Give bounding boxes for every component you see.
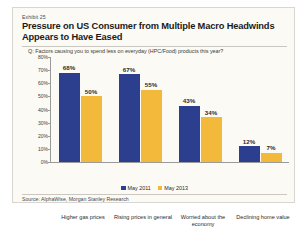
bar-value-label: 67% [115, 66, 143, 73]
legend-swatch-icon [121, 186, 126, 191]
legend-item[interactable]: May 2013 [158, 185, 188, 191]
y-axis-tick-label: 0% [28, 159, 48, 165]
bar-value-label: 34% [197, 109, 225, 116]
bar-value-label: 50% [77, 88, 105, 95]
bar[interactable] [201, 117, 222, 162]
y-axis-tick-label: 10% [28, 146, 48, 152]
legend-label: May 2011 [128, 185, 151, 191]
y-axis-tick-label: 40% [28, 107, 48, 113]
bar[interactable] [261, 153, 282, 162]
bar-group: 68%50% [54, 57, 112, 162]
bar-value-label: 43% [175, 97, 203, 104]
bar[interactable] [59, 73, 80, 162]
exhibit-label: Exhibit 25 [22, 14, 46, 20]
y-axis-tick-label: 60% [28, 80, 48, 86]
plot-area: 68%50%Higher gas prices67%55%Rising pric… [50, 57, 289, 162]
exhibit-card: Exhibit 25 Pressure on US Consumer from … [12, 7, 295, 203]
source-note: Source: AlphaWise, Morgan Stanley Resear… [22, 196, 129, 202]
y-axis-tick-label: 30% [28, 120, 48, 126]
source-divider [22, 194, 287, 195]
bar-group: 12%7% [234, 57, 292, 162]
bar-value-label: 68% [55, 64, 83, 71]
legend-item[interactable]: May 2011 [121, 185, 151, 191]
y-axis-tick-label: 20% [28, 133, 48, 139]
chart-legend: May 2011May 2013 [13, 185, 296, 191]
y-axis-tick-label: 70% [28, 67, 48, 73]
bar-group: 43%34% [174, 57, 232, 162]
title-divider [22, 46, 287, 47]
chart-title: Pressure on US Consumer from Multiple Ma… [22, 21, 290, 43]
y-axis-tick-label: 80% [28, 54, 48, 60]
x-axis-line [50, 162, 289, 163]
bar[interactable] [81, 96, 102, 162]
bar-value-label: 55% [137, 81, 165, 88]
legend-swatch-icon [158, 186, 163, 191]
bar-value-label: 7% [257, 144, 285, 151]
bar[interactable] [141, 90, 162, 162]
bar-group: 67%55% [114, 57, 172, 162]
chart-question: Q: Factors causing you to spend less on … [28, 48, 290, 54]
y-axis-tick-label: 50% [28, 93, 48, 99]
y-axis-labels: 80%70%60%50%40%30%20%10%0% [26, 57, 48, 162]
legend-label: May 2013 [164, 185, 188, 191]
